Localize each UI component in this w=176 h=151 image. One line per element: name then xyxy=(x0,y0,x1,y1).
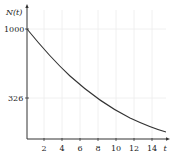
decay-curve xyxy=(27,29,166,132)
y-axis-label: N(t) xyxy=(5,8,22,17)
x-tick-6: 6 xyxy=(77,144,82,151)
chart: N(t) 1000 326 2 4 6 8 10 12 14 t xyxy=(0,0,176,151)
y-tick-326: 326 xyxy=(8,94,23,103)
y-tick-1000: 1000 xyxy=(4,25,24,34)
x-tick-10: 10 xyxy=(111,144,121,151)
x-tick-8: 8 xyxy=(95,144,100,151)
x-tick-4: 4 xyxy=(59,144,64,151)
grid xyxy=(27,10,166,139)
x-axis-arrow-icon xyxy=(166,137,170,140)
y-axis-arrow-icon xyxy=(25,4,28,8)
x-tick-2: 2 xyxy=(41,144,46,151)
x-tick-12: 12 xyxy=(129,144,139,151)
x-tick-14: 14 xyxy=(147,144,157,151)
x-axis-label: t xyxy=(163,144,167,151)
